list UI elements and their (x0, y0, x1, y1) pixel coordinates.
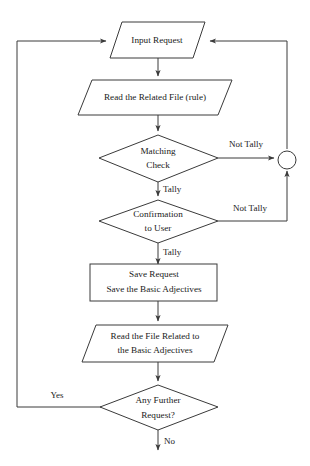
node-any-further-request-label-line2: Request? (141, 410, 175, 420)
node-any-further-request (100, 385, 218, 430)
edge-label-further-no: No (164, 436, 175, 446)
flowchart-canvas: Input Request Read the Related File (rul… (0, 0, 310, 466)
node-confirmation-to-user (99, 200, 218, 243)
node-matching-check (99, 135, 218, 182)
node-any-further-request-label-line1: Any Further (135, 395, 180, 405)
node-confirmation-to-user-label-line2: to User (145, 223, 172, 233)
node-read-file-basic-adjectives-label-line2: the Basic Adjectives (117, 345, 192, 355)
node-confirmation-to-user-label-line1: Confirmation (133, 209, 183, 219)
edge-label-further-yes: Yes (50, 390, 64, 400)
edge-confirmation-not-tally (218, 171, 287, 221)
node-matching-check-label-line2: Check (146, 160, 170, 170)
edge-label-matching-not-tally: Not Tally (229, 139, 263, 149)
node-read-related-file-label: Read the Related File (rule) (104, 92, 206, 102)
node-save-request-label-line1: Save Request (129, 269, 179, 279)
node-merge-connector (278, 151, 296, 169)
edge-label-matching-tally: Tally (163, 184, 182, 194)
node-matching-check-label-line1: Matching (140, 146, 176, 156)
node-save-request-label-line2: Save the Basic Adjectives (106, 284, 202, 294)
edge-label-confirmation-not-tally: Not Tally (233, 203, 267, 213)
flowchart-svg: Input Request Read the Related File (rul… (0, 0, 310, 466)
node-read-file-basic-adjectives-label-line1: Read the File Related to (111, 331, 200, 341)
edge-label-confirmation-tally: Tally (163, 247, 182, 257)
node-input-request-label: Input Request (131, 35, 183, 45)
